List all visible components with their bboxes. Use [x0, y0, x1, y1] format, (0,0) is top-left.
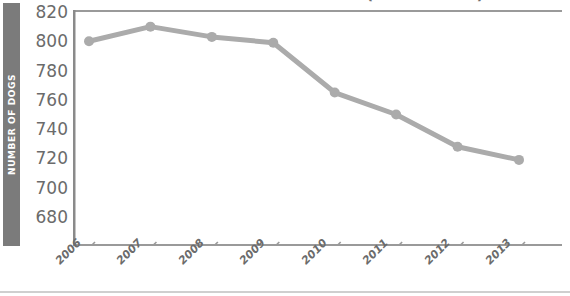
x-axis-tick-label: 2006 — [53, 236, 84, 267]
x-axis-tick-label: 2007 — [114, 236, 145, 267]
x-axis-tick-labels: 20062007200820092010201120122013 — [0, 0, 570, 296]
x-axis-tick-label: 2012 — [422, 236, 453, 267]
x-axis-tick-label: 2008 — [176, 236, 207, 267]
x-axis-tick-label: 2013 — [483, 236, 514, 267]
x-axis-tick-label: 2011 — [360, 236, 391, 267]
line-chart: NUMBER OF DOGS IN SHELTERS (2006 - 2013)… — [0, 0, 570, 296]
footer-rule — [0, 291, 570, 293]
x-axis-tick-label: 2010 — [299, 236, 330, 267]
x-axis-tick-label: 2009 — [237, 236, 268, 267]
